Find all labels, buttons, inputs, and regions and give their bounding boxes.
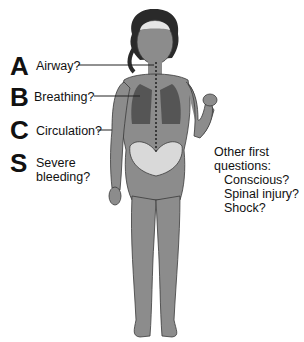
severe-bleeding-label: Severe bleeding? — [36, 156, 90, 184]
other-questions: Other first questions: Conscious? Spinal… — [214, 145, 304, 215]
letter-s: S — [10, 150, 27, 176]
severe-bleeding-line1: Severe — [36, 156, 90, 170]
question-shock: Shock? — [214, 201, 304, 215]
letter-c: C — [10, 117, 29, 143]
question-conscious: Conscious? — [214, 173, 304, 187]
torso — [120, 74, 190, 200]
letter-a: A — [10, 53, 29, 79]
right-leg — [156, 196, 180, 337]
question-spinal-injury: Spinal injury? — [214, 187, 304, 201]
severe-bleeding-line2: bleeding? — [36, 170, 90, 184]
airway-label: Airway? — [36, 59, 80, 73]
other-questions-heading: Other first questions: — [214, 145, 304, 173]
letter-b: B — [10, 84, 29, 110]
left-leg — [131, 196, 156, 337]
circulation-label: Circulation? — [36, 124, 102, 138]
breathing-label: Breathing? — [34, 90, 94, 104]
